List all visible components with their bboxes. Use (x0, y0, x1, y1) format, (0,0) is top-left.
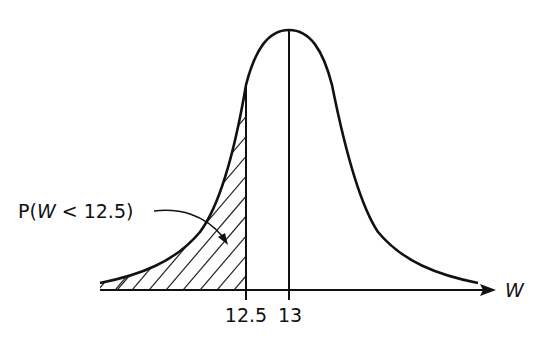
cutoff-tick-label: 12.5 (225, 304, 267, 326)
axis-label: W (505, 279, 525, 301)
probability-label: P(W < 12.5) (18, 200, 133, 222)
mean-tick-label: 13 (278, 304, 302, 326)
shaded-region (47, 25, 379, 310)
normal-curve-diagram: P(W < 12.5) 12.5 13 W (0, 0, 536, 339)
